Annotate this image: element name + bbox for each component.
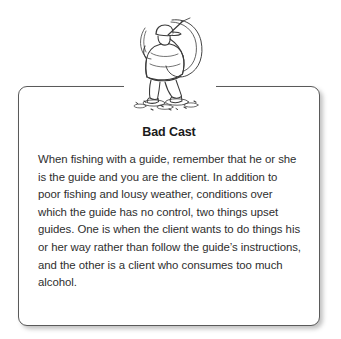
card-title: Bad Cast <box>19 125 319 139</box>
card-body-text: When fishing with a guide, remember that… <box>38 151 302 292</box>
tip-card: Bad Cast When fishing with a guide, reme… <box>18 86 320 326</box>
fisherman-illustration <box>124 12 216 112</box>
tip-page: Bad Cast When fishing with a guide, reme… <box>0 0 341 339</box>
